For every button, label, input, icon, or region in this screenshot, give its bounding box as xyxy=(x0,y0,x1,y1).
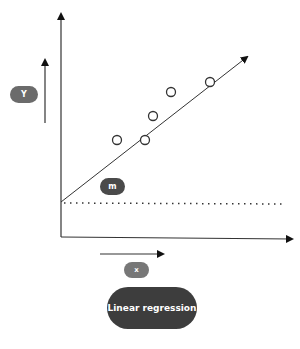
slope-label-pill: m xyxy=(100,178,125,195)
y-label-pill: Y xyxy=(10,86,38,103)
data-point xyxy=(206,78,215,87)
y-label: Y xyxy=(21,90,27,99)
x-axis xyxy=(61,237,292,239)
regression-line xyxy=(61,57,247,202)
data-point xyxy=(113,136,122,145)
diagram-title: Linear regression xyxy=(108,303,197,313)
slope-label: m xyxy=(108,182,116,191)
x-label: x xyxy=(134,266,139,274)
data-point xyxy=(167,88,176,97)
title-pill: Linear regression xyxy=(107,287,197,329)
x-label-pill: x xyxy=(124,262,149,278)
intercept-dotted-line xyxy=(64,203,284,204)
data-point xyxy=(141,136,150,145)
data-point xyxy=(149,112,158,121)
data-points xyxy=(113,78,215,145)
